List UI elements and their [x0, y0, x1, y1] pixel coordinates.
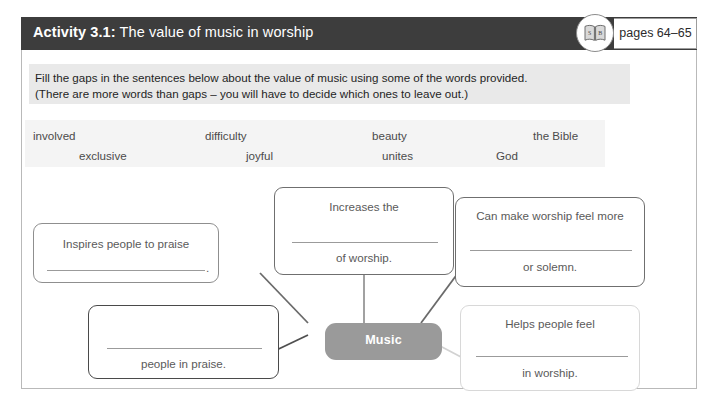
- answer-box-prompt-above: Inspires people to praise: [34, 237, 218, 250]
- answer-blank-line[interactable]: [47, 270, 205, 271]
- answer-box-prompt-below: people in praise.: [89, 357, 278, 370]
- answer-box-prompt-below: or solemn.: [456, 260, 644, 273]
- answer-box-bottom-left[interactable]: people in praise.: [88, 305, 279, 379]
- worksheet-page: Activity 3.1: The value of music in wors…: [0, 0, 719, 416]
- answer-box-prompt-above: Can make worship feel more: [456, 209, 644, 222]
- answer-box-prompt-above: Increases the: [275, 200, 453, 213]
- answer-blank-line[interactable]: [476, 356, 628, 357]
- answer-box-prompt-below: in worship.: [461, 366, 639, 379]
- answer-box-left[interactable]: Inspires people to praise .: [33, 223, 219, 283]
- answer-box-period: .: [206, 261, 209, 274]
- mind-map: Increases the of worship. Can make worsh…: [21, 17, 697, 389]
- answer-blank-line[interactable]: [292, 242, 438, 243]
- answer-box-prompt-above: Helps people feel: [461, 317, 639, 330]
- mind-map-center-node[interactable]: Music: [325, 323, 442, 360]
- answer-blank-line[interactable]: [470, 250, 632, 251]
- answer-box-top-center[interactable]: Increases the of worship.: [274, 187, 454, 275]
- answer-box-bottom-right[interactable]: Helps people feel in worship.: [460, 305, 640, 391]
- answer-box-prompt-below: of worship.: [275, 251, 453, 264]
- answer-box-top-right[interactable]: Can make worship feel more or solemn.: [455, 197, 645, 287]
- answer-blank-line[interactable]: [107, 348, 262, 349]
- mind-map-center-label: Music: [325, 333, 442, 347]
